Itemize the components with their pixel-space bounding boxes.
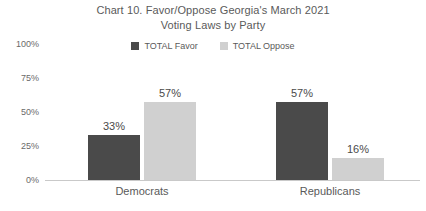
chart-container: Chart 10. Favor/Oppose Georgia's March 2… — [0, 0, 426, 211]
bar-value-label: 33% — [88, 120, 140, 132]
x-axis-label-democrats: Democrats — [67, 185, 217, 197]
plot-area: 100%75%50%25%0% 33%57% 57%16% — [45, 44, 420, 180]
x-axis-label-republicans: Republicans — [255, 185, 405, 197]
bar-group-democrats: 33%57% — [67, 44, 217, 180]
chart-title: Chart 10. Favor/Oppose Georgia's March 2… — [0, 3, 426, 32]
x-axis-labels: Democrats Republicans — [45, 185, 420, 205]
y-axis-tick-0: 0% — [26, 175, 39, 185]
y-axis-tick-25: 25% — [21, 141, 39, 151]
bar-republicans-total-favor[interactable]: 57% — [276, 44, 328, 180]
bar-value-label: 57% — [144, 87, 196, 99]
y-axis-tick-100: 100% — [16, 39, 39, 49]
bar-rect[interactable] — [276, 102, 328, 180]
bar-rect[interactable] — [88, 135, 140, 180]
bar-rect[interactable] — [332, 158, 384, 180]
bar-rect[interactable] — [144, 102, 196, 180]
bar-democrats-total-oppose[interactable]: 57% — [144, 44, 196, 180]
bar-value-label: 57% — [276, 87, 328, 99]
chart-title-line-2: Voting Laws by Party — [0, 18, 426, 33]
bar-value-label: 16% — [332, 143, 384, 155]
bar-republicans-total-oppose[interactable]: 16% — [332, 44, 384, 180]
y-axis-tick-75: 75% — [21, 73, 39, 83]
x-axis-baseline — [45, 180, 420, 181]
chart-title-line-1: Chart 10. Favor/Oppose Georgia's March 2… — [0, 3, 426, 18]
bar-group-republicans: 57%16% — [255, 44, 405, 180]
y-axis-tick-50: 50% — [21, 107, 39, 117]
bar-democrats-total-favor[interactable]: 33% — [88, 44, 140, 180]
